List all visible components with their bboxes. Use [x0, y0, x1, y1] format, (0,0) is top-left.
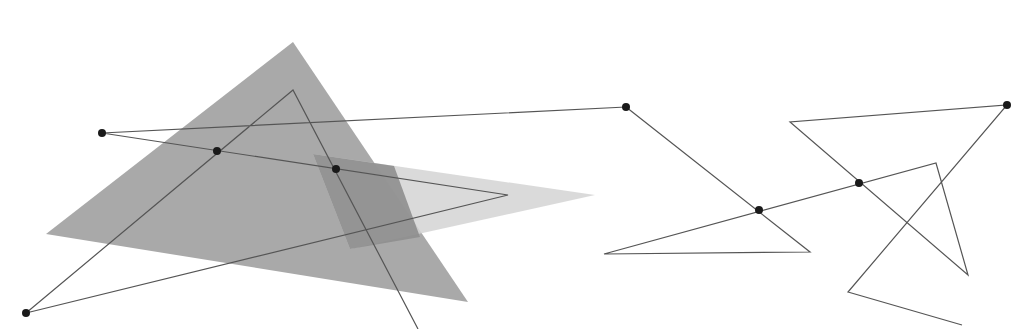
vertex-point — [98, 129, 106, 137]
vertex-point — [332, 165, 340, 173]
right-path — [604, 105, 1007, 325]
geometry-diagram — [0, 0, 1017, 329]
diagram-canvas — [0, 0, 1017, 329]
vertex-point — [622, 103, 630, 111]
vertex-point — [213, 147, 221, 155]
vertex-point — [1003, 101, 1011, 109]
vertex-point — [855, 179, 863, 187]
vertex-point — [22, 309, 30, 317]
vertex-point — [755, 206, 763, 214]
